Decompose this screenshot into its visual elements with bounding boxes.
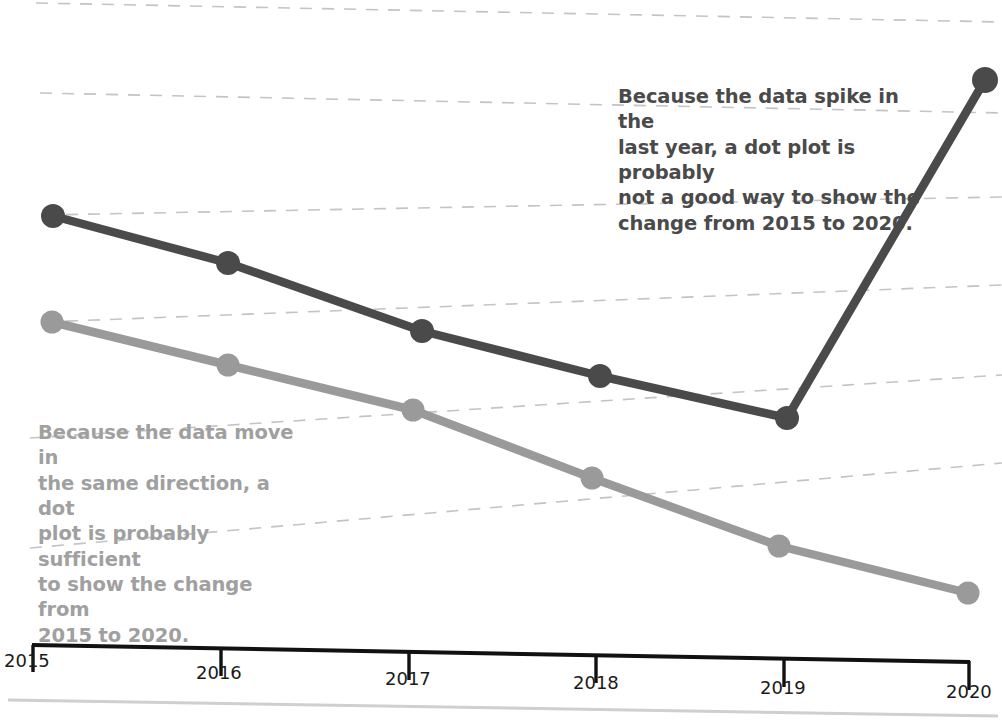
data-point-dark-2016 <box>216 251 240 275</box>
data-point-dark-2020 <box>972 67 998 93</box>
annotation-same-direction: Because the data move in the same direct… <box>38 420 306 648</box>
data-point-light-2017 <box>402 399 425 422</box>
x-axis-label-2020: 2020 <box>946 681 992 702</box>
data-point-dark-2018 <box>588 364 612 388</box>
x-axis-label-2017: 2017 <box>385 668 431 689</box>
data-point-light-2015 <box>41 311 64 334</box>
x-axis <box>32 645 970 690</box>
x-axis-label-2018: 2018 <box>573 672 619 693</box>
gridline-1 <box>36 3 1002 22</box>
x-axis-label-2015: 2015 <box>4 650 50 671</box>
data-point-light-2019 <box>768 535 791 558</box>
data-point-light-2016 <box>217 354 240 377</box>
data-point-dark-2017 <box>410 319 434 343</box>
data-point-dark-2019 <box>775 406 799 430</box>
x-axis-label-2016: 2016 <box>196 662 242 683</box>
data-point-light-2018 <box>581 467 604 490</box>
annotation-spike: Because the data spike in the last year,… <box>618 84 928 236</box>
x-axis-label-2019: 2019 <box>760 677 806 698</box>
footer-rule <box>8 700 998 716</box>
chart-page: Because the data spike in the last year,… <box>0 0 1002 723</box>
data-point-dark-2015 <box>41 204 65 228</box>
data-point-light-2020 <box>957 582 980 605</box>
